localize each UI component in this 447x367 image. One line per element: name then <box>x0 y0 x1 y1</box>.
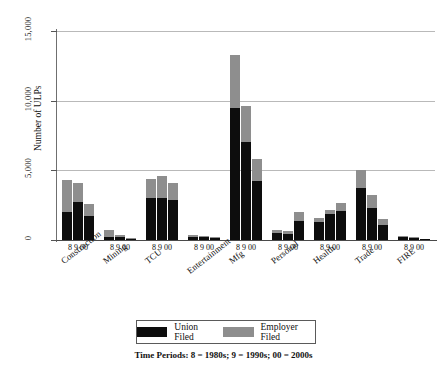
period-labels-tcu: 8 9 00 <box>141 243 183 252</box>
bar-personal-8 <box>272 230 283 240</box>
segment-union-filed <box>378 225 389 240</box>
segment-employer-filed <box>230 55 241 108</box>
bar-health-8 <box>314 218 325 240</box>
y-tick-mark-0 <box>51 240 57 241</box>
segment-union-filed <box>252 181 263 240</box>
y-tick-label-5000: 5,000 <box>23 148 33 188</box>
bar-group-mfg <box>230 31 263 240</box>
chart-caption: Time Periods: 8 = 1980s; 9 = 1990s; 00 =… <box>0 350 447 360</box>
bar-health-00 <box>336 203 347 240</box>
segment-union-filed <box>241 142 252 240</box>
segment-employer-filed <box>367 195 378 208</box>
segment-employer-filed <box>146 179 157 198</box>
y-axis-label: Number of ULPs <box>33 86 43 151</box>
segment-union-filed <box>336 211 347 240</box>
segment-employer-filed <box>336 203 347 211</box>
segment-employer-filed <box>252 159 263 181</box>
segment-employer-filed <box>84 204 95 217</box>
legend-label-union-filed: Union Filed <box>174 322 216 342</box>
segment-union-filed <box>157 198 168 240</box>
bar-construction-8 <box>62 180 73 240</box>
bar-trade-00 <box>378 219 389 240</box>
segment-union-filed <box>230 108 241 240</box>
bar-trade-9 <box>367 195 378 240</box>
y-tick-mark-10000 <box>51 101 57 102</box>
bar-mfg-00 <box>252 159 263 240</box>
bar-mfg-9 <box>241 106 252 240</box>
segment-union-filed <box>272 233 283 240</box>
chart-root: Number of ULPs 05,00010,00015,000 8 9 00… <box>0 0 447 367</box>
segment-union-filed <box>146 198 157 240</box>
segment-union-filed <box>62 212 73 240</box>
bar-health-9 <box>325 210 336 240</box>
bar-group-health <box>314 31 347 240</box>
bar-tcu-8 <box>146 179 157 240</box>
segment-union-filed <box>168 200 179 240</box>
y-tick-label-0: 0 <box>23 218 33 258</box>
bar-group-entertainment <box>188 31 221 240</box>
segment-employer-filed <box>168 183 179 200</box>
bar-tcu-9 <box>157 176 168 240</box>
bar-trade-8 <box>356 170 367 240</box>
x-axis-line <box>56 240 437 241</box>
category-label-entertainment: Entertainment <box>185 236 232 276</box>
bar-group-tcu <box>146 31 179 240</box>
legend-label-employer-filed: Employer Filed <box>261 322 316 342</box>
bar-group-trade <box>356 31 389 240</box>
y-tick-mark-15000 <box>51 31 57 32</box>
segment-employer-filed <box>241 106 252 142</box>
segment-employer-filed <box>157 176 168 198</box>
bar-tcu-00 <box>168 183 179 240</box>
bar-construction-9 <box>73 183 84 240</box>
segment-employer-filed <box>62 180 73 212</box>
segment-union-filed <box>367 208 378 240</box>
segment-employer-filed <box>356 170 367 187</box>
bar-mining-8 <box>104 230 115 240</box>
plot-area: Number of ULPs <box>57 31 435 240</box>
legend: Union Filed Employer Filed <box>136 320 316 344</box>
y-tick-mark-5000 <box>51 170 57 171</box>
bar-group-personal <box>272 31 305 240</box>
bar-mfg-8 <box>230 55 241 240</box>
segment-union-filed <box>314 222 325 240</box>
segment-union-filed <box>73 202 84 240</box>
y-tick-label-15000: 15,000 <box>23 9 33 49</box>
bar-personal-00 <box>294 212 305 240</box>
union-filed-swatch <box>137 327 167 337</box>
y-axis-line <box>56 29 57 242</box>
employer-filed-swatch <box>223 327 253 337</box>
segment-union-filed <box>325 214 336 240</box>
bar-group-fire <box>398 31 431 240</box>
segment-union-filed <box>294 221 305 241</box>
bar-group-construction <box>62 31 95 240</box>
y-tick-label-10000: 10,000 <box>23 79 33 119</box>
segment-union-filed <box>356 188 367 240</box>
segment-employer-filed <box>294 212 305 220</box>
bar-group-mining <box>104 31 137 240</box>
segment-employer-filed <box>73 183 84 203</box>
